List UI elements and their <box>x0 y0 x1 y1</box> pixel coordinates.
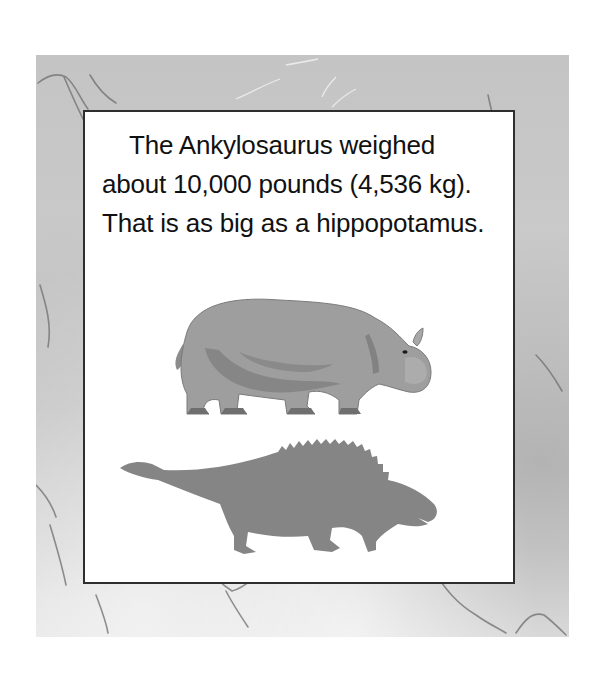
ankylosaurus-silhouette <box>118 432 458 557</box>
body-text: The Ankylosaurus weighed about 10,000 po… <box>85 126 513 243</box>
text-line-2: about 10,000 pounds (4,536 kg). <box>85 165 513 204</box>
text-line-1: The Ankylosaurus weighed <box>85 126 513 165</box>
text-and-illustration-box: The Ankylosaurus weighed about 10,000 po… <box>83 110 515 584</box>
hippopotamus-illustration <box>169 288 439 418</box>
book-page: The Ankylosaurus weighed about 10,000 po… <box>0 0 606 691</box>
text-line-3: That is as big as a hippopotamus. <box>85 204 513 243</box>
